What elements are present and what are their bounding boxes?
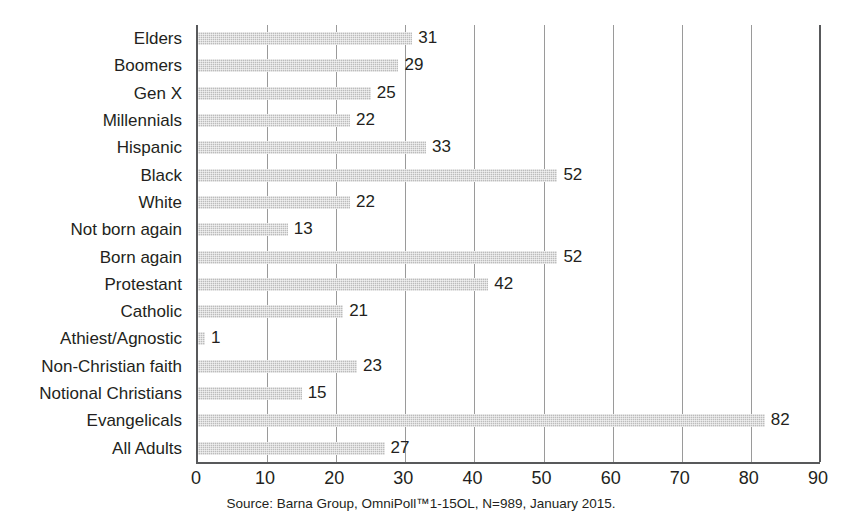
bar-row: 27 — [198, 435, 820, 462]
bar-row: 25 — [198, 80, 820, 107]
bar — [198, 114, 350, 127]
bar-row: 52 — [198, 162, 820, 189]
x-tick-label: 30 — [393, 466, 413, 490]
category-label: Black — [0, 162, 188, 189]
bar — [198, 59, 398, 72]
category-label: Catholic — [0, 298, 188, 325]
bar — [198, 332, 205, 345]
category-label: All Adults — [0, 435, 188, 462]
bar-value-label: 22 — [356, 190, 375, 214]
bar — [198, 360, 357, 373]
bar-value-label: 29 — [404, 53, 423, 77]
bar — [198, 305, 343, 318]
bar — [198, 442, 385, 455]
x-axis-tick-labels: 0102030405060708090 — [196, 466, 818, 492]
bar-value-label: 22 — [356, 108, 375, 132]
chart-figure: EldersBoomersGen XMillennialsHispanicBla… — [0, 0, 842, 523]
category-label: Boomers — [0, 52, 188, 79]
x-tick-label: 60 — [601, 466, 621, 490]
bar-row: 22 — [198, 189, 820, 216]
x-tick-label: 50 — [532, 466, 552, 490]
bar — [198, 32, 412, 45]
bar — [198, 223, 288, 236]
bar-series: 3129252233522213524221123158227 — [198, 25, 820, 462]
bar-row: 22 — [198, 107, 820, 134]
bar-value-label: 25 — [377, 81, 396, 105]
chart-title — [0, 0, 842, 2]
x-tick-label: 80 — [739, 466, 759, 490]
source-note: Source: Barna Group, OmniPoll™1-15OL, N=… — [0, 496, 842, 511]
x-tick-label: 70 — [670, 466, 690, 490]
bar-value-label: 1 — [211, 326, 220, 350]
bar-value-label: 33 — [432, 135, 451, 159]
bar-row: 23 — [198, 353, 820, 380]
bar-row: 31 — [198, 25, 820, 52]
bar — [198, 196, 350, 209]
category-label: Gen X — [0, 80, 188, 107]
bar — [198, 251, 557, 264]
x-tick-label: 40 — [462, 466, 482, 490]
bar-value-label: 23 — [363, 354, 382, 378]
bar-value-label: 31 — [418, 26, 437, 50]
category-label: Athiest/Agnostic — [0, 325, 188, 352]
category-label: Evangelicals — [0, 407, 188, 434]
bar — [198, 87, 371, 100]
bar — [198, 414, 765, 427]
bar-value-label: 21 — [349, 299, 368, 323]
bar-row: 42 — [198, 271, 820, 298]
category-label: White — [0, 189, 188, 216]
bar-row: 1 — [198, 325, 820, 352]
category-label: Elders — [0, 25, 188, 52]
bar-row: 15 — [198, 380, 820, 407]
category-label: Born again — [0, 244, 188, 271]
bar — [198, 278, 488, 291]
bar — [198, 387, 302, 400]
category-label: Notional Christians — [0, 380, 188, 407]
category-axis-labels: EldersBoomersGen XMillennialsHispanicBla… — [0, 25, 188, 462]
bar-value-label: 27 — [391, 436, 410, 460]
bar-row: 21 — [198, 298, 820, 325]
bar-row: 13 — [198, 216, 820, 243]
category-label: Hispanic — [0, 134, 188, 161]
bar-value-label: 42 — [494, 272, 513, 296]
bar-row: 33 — [198, 134, 820, 161]
x-tick-label: 10 — [255, 466, 275, 490]
x-tick-label: 0 — [191, 466, 201, 490]
x-tick-label: 20 — [324, 466, 344, 490]
bar-row: 29 — [198, 52, 820, 79]
bar-value-label: 13 — [294, 217, 313, 241]
plot-area: 3129252233522213524221123158227 — [196, 25, 820, 464]
category-label: Protestant — [0, 271, 188, 298]
bar-value-label: 15 — [308, 381, 327, 405]
bar-value-label: 82 — [771, 408, 790, 432]
bar-row: 82 — [198, 407, 820, 434]
category-label: Non-Christian faith — [0, 353, 188, 380]
category-label: Not born again — [0, 216, 188, 243]
bar — [198, 169, 557, 182]
bar-row: 52 — [198, 244, 820, 271]
bar-value-label: 52 — [563, 163, 582, 187]
bar-value-label: 52 — [563, 245, 582, 269]
x-tick-label: 90 — [808, 466, 828, 490]
category-label: Millennials — [0, 107, 188, 134]
bar — [198, 141, 426, 154]
